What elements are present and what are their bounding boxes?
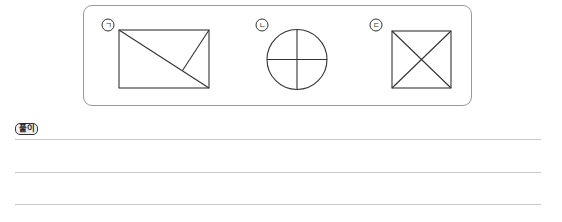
solution-badge: 풀이 <box>15 123 38 135</box>
answer-line-1[interactable] <box>15 139 541 140</box>
figure-panel <box>83 5 472 106</box>
answer-line-2[interactable] <box>15 172 541 173</box>
answer-line-3[interactable] <box>15 204 541 205</box>
